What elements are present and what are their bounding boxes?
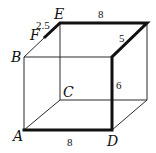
edge-A-C [24, 100, 60, 130]
vertex-label-D: D [106, 133, 118, 149]
vertex-label-C: C [63, 84, 74, 100]
measure-height-right: 6 [116, 79, 122, 91]
measure-bottom-edge: 8 [67, 136, 73, 148]
measure-top-edge: 8 [98, 8, 104, 20]
edge-D-I [112, 100, 147, 130]
vertex-label-A: A [11, 128, 23, 144]
measure-depth-right: 5 [119, 32, 125, 44]
measure-FE: 2.5 [36, 19, 50, 31]
rectangular-prism-diagram: E F B C A D 2.5 8 5 6 8 [0, 0, 156, 153]
vertex-label-E: E [53, 6, 64, 22]
vertex-label-B: B [10, 49, 21, 65]
